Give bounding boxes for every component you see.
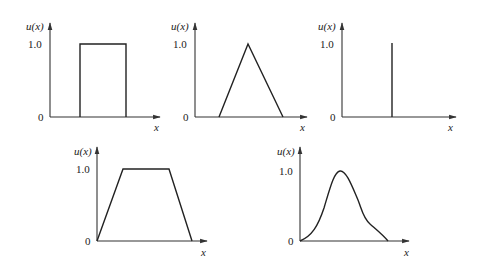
tick-1-0: 1.0 bbox=[28, 38, 42, 50]
x-axis-label: x bbox=[200, 246, 206, 258]
panel-trapezoidal: u(x) 1.0 0 x bbox=[74, 145, 207, 258]
tick-1-0: 1.0 bbox=[320, 38, 334, 50]
x-axis-label: x bbox=[447, 121, 453, 133]
tick-0: 0 bbox=[183, 111, 189, 123]
x-axis-label: x bbox=[153, 121, 159, 133]
bell-function bbox=[300, 171, 388, 241]
panel-triangular: u(x) 1.0 0 x bbox=[171, 20, 307, 133]
tick-0: 0 bbox=[85, 235, 91, 247]
panel-bell: u(x) 1.0 0 x bbox=[277, 145, 409, 258]
tick-1-0: 1.0 bbox=[173, 38, 187, 50]
panel-singleton: u(x) 1.0 0 x bbox=[318, 20, 456, 133]
y-axis-label: u(x) bbox=[277, 145, 295, 158]
tick-0: 0 bbox=[38, 111, 44, 123]
y-axis-label: u(x) bbox=[171, 20, 189, 33]
x-axis-label: x bbox=[403, 246, 409, 258]
tick-1-0: 1.0 bbox=[76, 163, 90, 175]
tick-0: 0 bbox=[330, 111, 336, 123]
panel-rectangular: u(x) 1.0 0 x bbox=[26, 20, 160, 133]
y-axis-label: u(x) bbox=[318, 20, 336, 33]
tick-1-0: 1.0 bbox=[279, 165, 293, 177]
y-axis-label: u(x) bbox=[26, 20, 44, 33]
triangle-function bbox=[219, 44, 283, 117]
y-axis-label: u(x) bbox=[74, 145, 92, 158]
membership-functions-figure: u(x) 1.0 0 x u(x) 1.0 0 x u(x) 1.0 0 x u… bbox=[0, 0, 481, 272]
rectangle-function bbox=[80, 44, 126, 117]
x-axis-label: x bbox=[299, 121, 305, 133]
trapezoid-function bbox=[97, 169, 192, 241]
tick-0: 0 bbox=[288, 235, 294, 247]
